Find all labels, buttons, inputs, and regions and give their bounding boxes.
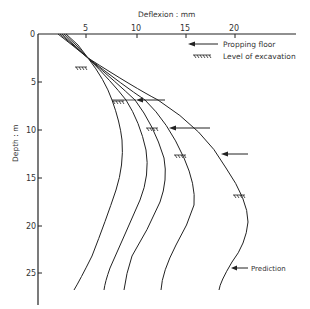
y-tick-label: 20	[26, 222, 36, 231]
legend: Propping floor Level of excavation	[188, 40, 296, 61]
hatch-icon	[233, 195, 245, 198]
legend-arrowhead-icon	[188, 42, 195, 47]
curve-stage-4	[64, 34, 194, 290]
y-tick-label: 15	[26, 174, 36, 183]
excavation-level-markers	[75, 67, 245, 198]
x-tick-label: 0	[30, 30, 35, 39]
x-axis-title: Deflexion : mm	[138, 10, 195, 19]
y-axis-title: Depth : m	[11, 125, 20, 162]
arrowhead-icon	[231, 266, 237, 271]
hatch-icon	[112, 101, 124, 104]
x-tick-label: 10	[131, 24, 141, 33]
arrowhead-icon	[169, 126, 176, 131]
prediction-label: Prediction	[251, 265, 286, 273]
x-tick-label: 15	[180, 24, 190, 33]
legend-propping-label: Propping floor	[223, 40, 276, 49]
y-tick-label: 10	[26, 126, 36, 135]
deflexion-depth-chart: 0 5 10 15 20 Deflexion : mm 5 10 15 20 2…	[0, 0, 310, 309]
curve-stage-1	[58, 34, 122, 290]
y-tick-label: 5	[31, 78, 36, 87]
curve-stage-3	[62, 34, 165, 290]
x-tick-label: 20	[229, 24, 239, 33]
y-tick-label: 25	[26, 269, 36, 278]
legend-hatch-icon	[193, 55, 211, 58]
arrowhead-icon	[221, 152, 228, 157]
curve-stage-2	[60, 34, 147, 290]
propping-floor-markers	[112, 98, 248, 157]
prediction-annotation: Prediction	[231, 265, 286, 273]
x-tick-label: 5	[83, 24, 88, 33]
deflection-curves	[58, 34, 248, 290]
arrowhead-icon	[136, 98, 143, 103]
hatch-icon	[75, 67, 87, 70]
legend-excavation-label: Level of excavation	[223, 52, 296, 61]
